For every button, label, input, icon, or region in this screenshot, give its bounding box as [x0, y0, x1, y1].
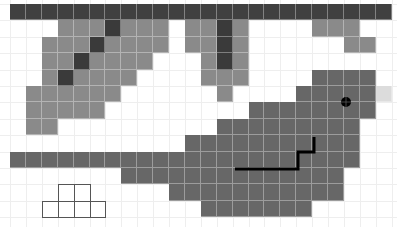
crosshair-target-icon[interactable] [339, 95, 353, 109]
game-board[interactable] [0, 0, 397, 227]
path-line [0, 0, 397, 227]
